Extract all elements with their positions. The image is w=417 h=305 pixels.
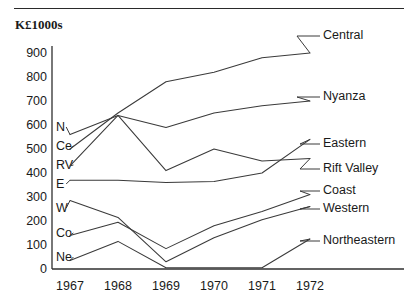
leader-nyanza (297, 97, 320, 101)
left-leader-nyanza (66, 127, 70, 135)
line-rift-valley (70, 115, 310, 170)
line-coast (70, 195, 310, 249)
axes-group (52, 46, 404, 269)
leader-eastern (300, 139, 320, 144)
leader-rift-valley (300, 159, 320, 169)
line-northeastern (70, 239, 310, 268)
data-lines-group (70, 53, 310, 268)
leader-northeastern (300, 239, 320, 241)
line-eastern (70, 139, 310, 182)
chart-figure: K£1000s 9008007006005004003002001000 196… (0, 0, 417, 305)
line-central (70, 53, 310, 149)
line-western (70, 201, 310, 262)
left-leader-central (70, 146, 73, 149)
left-leader-western (66, 201, 70, 208)
leader-coast (300, 191, 320, 195)
plot-area (0, 0, 417, 305)
line-nyanza (70, 101, 310, 135)
leader-western (300, 207, 320, 209)
left-leader-eastern (66, 180, 70, 184)
label-leader-lines-group (66, 36, 320, 261)
leader-central (297, 36, 320, 53)
